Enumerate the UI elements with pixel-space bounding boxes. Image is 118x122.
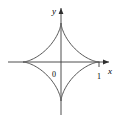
origin-label: 0 xyxy=(52,64,56,80)
x-axis-label: x xyxy=(108,61,112,77)
plot-canvas xyxy=(0,0,118,122)
x-tick-label-1: 1 xyxy=(97,66,101,82)
astroid-figure: y x 0 1 xyxy=(0,0,118,122)
y-axis-label: y xyxy=(52,1,56,17)
y-axis-arrow-icon xyxy=(59,8,64,14)
